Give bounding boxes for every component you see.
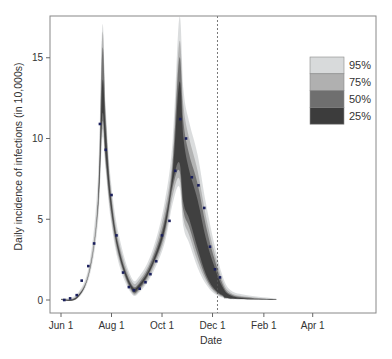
observed-point — [174, 170, 177, 173]
observed-point — [80, 279, 83, 282]
x-tick-label: Aug 1 — [98, 320, 125, 331]
observed-point — [155, 260, 158, 263]
observed-point — [69, 297, 72, 300]
y-tick-label: 5 — [37, 214, 43, 225]
observed-point — [87, 265, 90, 268]
incidence-chart: 051015 Jun 1Aug 1Oct 1Dec 1Feb 1Apr 1 Da… — [0, 0, 392, 359]
observed-point — [138, 287, 141, 290]
observed-point — [179, 118, 182, 121]
band-95pct — [61, 17, 276, 301]
observed-point — [75, 294, 78, 297]
observed-point — [122, 271, 125, 274]
observed-point — [191, 176, 194, 179]
legend-label: 50% — [349, 93, 371, 105]
legend-label: 75% — [349, 76, 371, 88]
band-75pct — [61, 32, 276, 301]
observed-point — [133, 289, 136, 292]
observed-point — [219, 276, 222, 279]
observed-point — [185, 137, 188, 140]
observed-point — [197, 184, 200, 187]
observed-point — [93, 242, 96, 245]
x-axis: Jun 1Aug 1Oct 1Dec 1Feb 1Apr 1 — [49, 313, 325, 331]
uncertainty-bands — [61, 17, 276, 301]
observed-point — [214, 268, 217, 271]
legend-swatch — [310, 57, 344, 74]
observed-point — [115, 234, 118, 237]
observed-point — [128, 286, 131, 289]
legend-swatch — [310, 91, 344, 108]
y-tick-label: 15 — [32, 52, 44, 63]
y-tick-label: 10 — [32, 133, 44, 144]
x-tick-label: Apr 1 — [301, 320, 325, 331]
observed-point — [203, 207, 206, 210]
observed-point — [161, 234, 164, 237]
x-tick-label: Dec 1 — [199, 320, 226, 331]
observed-point — [63, 299, 66, 302]
y-tick-label: 0 — [37, 295, 43, 306]
observed-point — [104, 149, 107, 152]
legend: 95%75%50%25% — [310, 57, 371, 124]
y-axis-title: Daily incidence of infections (in 10,000… — [12, 63, 24, 251]
x-tick-label: Jun 1 — [49, 320, 74, 331]
observed-point — [168, 220, 171, 223]
observed-point — [149, 273, 152, 276]
legend-label: 95% — [349, 59, 371, 71]
observed-point — [99, 123, 102, 126]
x-tick-label: Feb 1 — [251, 320, 277, 331]
legend-swatch — [310, 107, 344, 124]
band-50pct — [61, 48, 276, 301]
observed-point — [110, 194, 113, 197]
legend-swatch — [310, 74, 344, 91]
x-axis-title: Date — [200, 334, 222, 346]
observed-point — [144, 281, 147, 284]
y-axis: 051015 — [32, 52, 50, 305]
x-tick-label: Oct 1 — [150, 320, 174, 331]
legend-label: 25% — [349, 110, 371, 122]
observed-point — [209, 245, 212, 248]
